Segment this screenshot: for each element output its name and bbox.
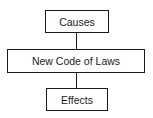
node-effects: Effects: [46, 88, 108, 111]
connector-code-to-effects: [76, 73, 77, 88]
node-effects-label: Effects: [61, 94, 93, 106]
node-causes-label: Causes: [59, 16, 95, 28]
connector-causes-to-code: [76, 33, 77, 49]
node-new-code-of-laws-label: New Code of Laws: [32, 55, 120, 67]
node-causes: Causes: [45, 10, 109, 33]
node-new-code-of-laws: New Code of Laws: [7, 49, 145, 73]
